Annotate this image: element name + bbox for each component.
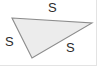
geometry-figure: S S S bbox=[0, 0, 97, 66]
side-label-left: S bbox=[5, 35, 14, 48]
side-label-top: S bbox=[48, 1, 57, 14]
figure-border-right bbox=[96, 0, 97, 66]
figure-border-bottom bbox=[0, 65, 97, 66]
triangle-shape bbox=[12, 18, 92, 58]
side-label-bottom-right: S bbox=[66, 41, 75, 54]
